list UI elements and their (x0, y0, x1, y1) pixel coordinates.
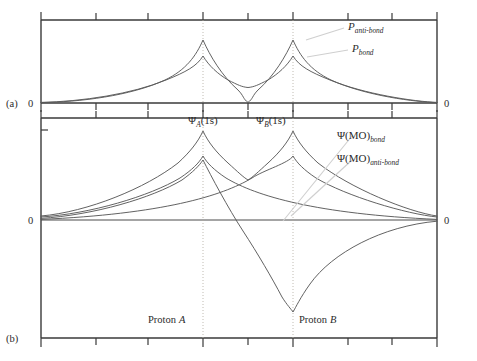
label-p-anti-bond: Panti-bond (347, 20, 384, 35)
panel-a-bottom-ticks (41, 103, 437, 112)
panel-b-bottom-ticks (41, 338, 437, 347)
panel-a-top-ticks (41, 12, 437, 20)
label-proton-a-text: Proton (148, 314, 177, 325)
curve-mo-anti-bond (41, 160, 437, 312)
leader-p-bond (307, 50, 348, 57)
panel-a-zero-right: 0 (444, 98, 449, 109)
label-mo-anti-main: Ψ(MO) (337, 152, 371, 165)
label-p-bond-sub: bond (359, 48, 374, 57)
molecular-orbital-figure: Panti-bond Pbond (a) 0 0 (0, 0, 477, 361)
panel-b: ΨA(1s) ΨB(1s) Ψ(MO)bond Ψ(MO)anti-bond P… (6, 110, 449, 347)
label-proton-b-italic: B (330, 314, 337, 325)
panel-a-tag: (a) (6, 98, 18, 110)
curve-p-anti-bond (41, 40, 437, 103)
label-proton-a: ProtonA (148, 314, 186, 325)
panel-b-tag: (b) (6, 333, 19, 345)
label-psi-a-1s: ΨA(1s) (188, 114, 218, 129)
label-mo-bond-main: Ψ(MO) (337, 129, 371, 142)
panel-a-zero-left: 0 (28, 98, 33, 109)
label-mo-bond: Ψ(MO)bond (337, 129, 385, 144)
panel-b-zero-left: 0 (28, 215, 33, 226)
label-psi-b-tail: (1s) (269, 114, 286, 127)
label-proton-a-italic: A (178, 314, 186, 325)
panel-b-zero-right: 0 (444, 215, 449, 226)
leader-mo-anti-bond (291, 160, 352, 216)
panel-b-top-ticks (41, 110, 437, 118)
label-mo-bond-sub: bond (370, 135, 385, 144)
panel-a: Panti-bond Pbond (a) 0 0 (6, 12, 449, 112)
label-p-bond: Pbond (351, 42, 374, 57)
label-p-anti-bond-sub: anti-bond (355, 26, 384, 35)
label-proton-b-text: Proton (299, 314, 328, 325)
label-proton-b: ProtonB (299, 314, 337, 325)
label-mo-anti-sub: anti-bond (370, 158, 399, 167)
leader-p-anti-bond (306, 28, 344, 40)
curve-p-bond (41, 56, 437, 102)
label-psi-b-1s: ΨB(1s) (256, 114, 286, 129)
figure-svg: Panti-bond Pbond (a) 0 0 (0, 0, 477, 361)
label-psi-a-tail: (1s) (201, 114, 218, 127)
